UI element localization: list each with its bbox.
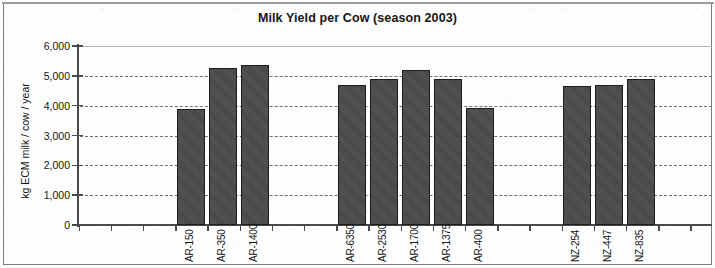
- x-axis-tick: [626, 225, 628, 231]
- x-axis-tick-label-text: AR-150: [184, 229, 195, 262]
- x-axis-tick-label-text: AR-1375: [441, 224, 452, 262]
- x-axis-tick: [690, 225, 692, 231]
- x-axis-tick-label-text: AR-400: [473, 229, 484, 262]
- y-axis-tick-label: 1,000: [8, 189, 70, 201]
- bar: [402, 70, 430, 225]
- x-axis-tick: [111, 225, 113, 231]
- bar: [338, 85, 366, 225]
- x-axis-tick-label-text: NZ-447: [602, 230, 613, 262]
- x-axis-tick: [304, 225, 306, 231]
- bar: [434, 79, 462, 225]
- x-axis-tick: [175, 225, 177, 231]
- x-axis-tick: [497, 225, 499, 231]
- bar: [466, 108, 494, 225]
- y-axis-tick-label: 6,000: [8, 40, 70, 52]
- bar: [241, 65, 269, 226]
- x-axis-tick-label-text: NZ-254: [570, 230, 581, 262]
- x-axis-tick-label-text: AR-1700: [409, 224, 420, 262]
- x-axis-tick: [562, 225, 564, 231]
- bar: [177, 109, 205, 225]
- x-axis-tick: [658, 225, 660, 231]
- x-axis-tick: [336, 225, 338, 231]
- x-axis-tick: [401, 225, 403, 231]
- x-axis-tick: [240, 225, 242, 231]
- bar: [627, 79, 655, 225]
- x-axis-tick: [79, 225, 81, 231]
- chart-screenshot: Milk Yield per Cow (season 2003) kg ECM …: [0, 0, 715, 268]
- bars-layer: [78, 46, 712, 225]
- x-axis-tick-label-text: AR-6350: [345, 224, 356, 262]
- x-axis-tick: [207, 225, 209, 231]
- y-axis-tick-label: 5,000: [8, 70, 70, 82]
- y-axis-tick-label: 0: [8, 219, 70, 231]
- y-axis-tick-label: 4,000: [8, 100, 70, 112]
- x-axis-tick: [272, 225, 274, 231]
- bar: [370, 79, 398, 225]
- chart-title: Milk Yield per Cow (season 2003): [0, 11, 715, 25]
- x-axis-tick: [368, 225, 370, 231]
- x-axis-tick-label-text: AR-350: [216, 229, 227, 262]
- x-axis-tick: [529, 225, 531, 231]
- x-axis-tick: [594, 225, 596, 231]
- x-axis-tick-label-text: NZ-835: [634, 230, 645, 262]
- bar: [209, 68, 237, 225]
- x-axis-tick: [143, 225, 145, 231]
- x-axis-tick-label-text: AR-2530: [377, 224, 388, 262]
- bar: [563, 86, 591, 225]
- y-axis-tick-label: 3,000: [8, 130, 70, 142]
- y-axis-tick-label: 2,000: [8, 159, 70, 171]
- x-axis-tick-label-text: AR-1400: [248, 224, 259, 262]
- bar: [595, 85, 623, 225]
- x-axis-tick: [433, 225, 435, 231]
- x-axis-tick: [465, 225, 467, 231]
